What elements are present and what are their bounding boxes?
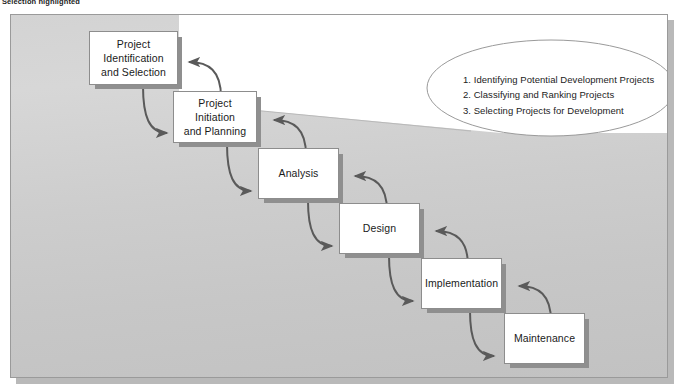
node-label-line: Initiation — [180, 110, 251, 124]
node-label-line: Project — [97, 37, 170, 51]
node-analysis[interactable]: Analysis — [258, 148, 339, 199]
node-label-line: Identification — [97, 51, 170, 65]
node-label: Analysis — [275, 166, 323, 180]
callout-item: 3. Selecting Projects for Development — [463, 103, 668, 118]
connector-design-implementation — [389, 256, 413, 301]
node-label-line: and Selection — [97, 65, 170, 79]
node-project-initiation-and-planning[interactable]: Project Initiation and Planning — [173, 91, 257, 143]
callout-item-list: 1. Identifying Potential Development Pro… — [463, 72, 668, 118]
node-label: Project Identification and Selection — [93, 37, 174, 80]
node-label: Implementation — [421, 276, 502, 290]
callout-item: 2. Classifying and Ranking Projects — [463, 87, 668, 102]
diagram-panel: Project Identification and Selection Pro… — [10, 14, 668, 378]
node-maintenance[interactable]: Maintenance — [504, 313, 585, 364]
connector-implementation-maintenance — [470, 311, 494, 356]
node-label: Project Initiation and Planning — [176, 96, 255, 139]
node-implementation[interactable]: Implementation — [421, 258, 502, 309]
frame-shadow-bottom — [16, 378, 674, 384]
node-label-line: and Planning — [180, 124, 251, 138]
page-root: Selection highlighted — [0, 0, 676, 388]
node-design[interactable]: Design — [339, 203, 420, 254]
connector-identification-initiation — [143, 86, 167, 133]
connector-analysis-design — [308, 201, 332, 246]
node-project-identification-and-selection[interactable]: Project Identification and Selection — [89, 31, 178, 85]
figure-caption: Selection highlighted — [2, 0, 80, 6]
frame-shadow-right — [668, 20, 674, 378]
connector-initiation-analysis — [227, 144, 251, 191]
node-label-line: Project — [180, 96, 251, 110]
node-label: Design — [359, 221, 400, 235]
node-label: Maintenance — [510, 331, 579, 345]
callout-item: 1. Identifying Potential Development Pro… — [463, 72, 668, 87]
